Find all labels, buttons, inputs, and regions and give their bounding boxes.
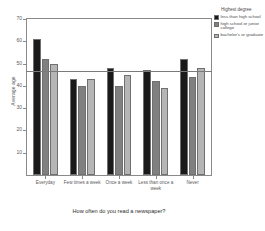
x-axis: EverydayFew times a weekOnce a weekLess … bbox=[27, 180, 211, 204]
legend: Highest degree less than high schoolhigh… bbox=[214, 7, 264, 40]
legend-swatch bbox=[214, 22, 219, 27]
bar bbox=[78, 86, 86, 175]
legend-label: bachelor's or graduate bbox=[221, 33, 264, 38]
y-tick-label: 10 bbox=[16, 149, 22, 155]
bar bbox=[107, 68, 115, 175]
bar-group bbox=[33, 19, 58, 175]
bar-group bbox=[143, 19, 168, 175]
bar bbox=[87, 79, 95, 175]
legend-swatch bbox=[214, 15, 219, 20]
bar-group bbox=[107, 19, 132, 175]
bar bbox=[197, 68, 205, 175]
legend-item: bachelor's or graduate bbox=[214, 33, 264, 38]
bar bbox=[180, 59, 188, 175]
bar bbox=[161, 88, 169, 175]
x-tick-mark bbox=[193, 176, 194, 179]
y-tick-label: 20 bbox=[16, 126, 22, 132]
y-tick-label: 70 bbox=[16, 15, 22, 21]
x-tick-label: Never bbox=[170, 180, 215, 186]
legend-swatch bbox=[214, 34, 219, 39]
bar bbox=[70, 79, 78, 175]
bar bbox=[152, 81, 160, 175]
y-axis: 10203040506070 bbox=[0, 0, 26, 231]
legend-entries: less than high schoolhigh school or juni… bbox=[214, 15, 264, 39]
reference-line bbox=[26, 71, 212, 72]
bar-group bbox=[70, 19, 95, 175]
x-tick-mark bbox=[119, 176, 120, 179]
bar bbox=[42, 59, 50, 175]
bar bbox=[115, 86, 123, 175]
bars-layer bbox=[27, 19, 211, 175]
x-tick-mark bbox=[82, 176, 83, 179]
x-tick-mark bbox=[156, 176, 157, 179]
legend-item: high school or junior college bbox=[214, 22, 264, 32]
y-tick-label: 60 bbox=[16, 37, 22, 43]
legend-item: less than high school bbox=[214, 15, 264, 20]
legend-label: less than high school bbox=[221, 15, 261, 20]
bar bbox=[50, 64, 58, 175]
y-tick-label: 40 bbox=[16, 82, 22, 88]
bar bbox=[189, 77, 197, 175]
bar-group bbox=[180, 19, 205, 175]
bar bbox=[33, 39, 41, 175]
bar bbox=[143, 70, 151, 175]
y-tick-label: 50 bbox=[16, 60, 22, 66]
legend-label: high school or junior college bbox=[221, 22, 265, 32]
bar-chart: Average age 10203040506070 EverydayFew t… bbox=[0, 0, 264, 231]
bar bbox=[124, 75, 132, 175]
y-tick-label: 30 bbox=[16, 104, 22, 110]
x-tick-mark bbox=[45, 176, 46, 179]
x-axis-title: How often do you read a newspaper? bbox=[26, 208, 212, 214]
legend-title: Highest degree bbox=[221, 7, 264, 12]
